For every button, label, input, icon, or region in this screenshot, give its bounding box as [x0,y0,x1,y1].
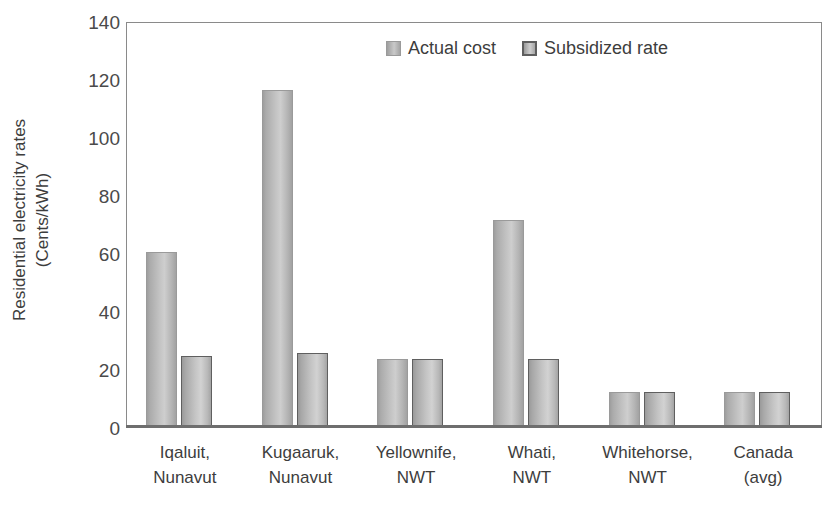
x-tick-label-5-line-1: (avg) [695,465,828,490]
plot-area [127,23,821,428]
y-tick-80: 80 [64,187,120,206]
bar-subsidized-rate [412,359,443,428]
y-tick-120: 120 [64,71,120,90]
bar-subsidized-rate [644,392,675,428]
y-tick-60: 60 [64,245,120,264]
chart-legend: Actual cost Subsidized rate [386,38,668,59]
x-tick-label-5: Canada(avg) [695,440,828,490]
bar-actual-cost [724,392,755,428]
legend-item-subsidized-rate: Subsidized rate [522,38,668,59]
bar-chart: Residential electricity rates (Cents/kWh… [0,0,828,505]
legend-swatch-subsidized-rate-icon [522,41,537,56]
legend-label-subsidized-rate: Subsidized rate [544,38,668,59]
legend-swatch-actual-cost-icon [386,41,401,56]
y-axis-title-line-1: Residential electricity rates [8,119,31,321]
y-tick-140: 140 [64,13,120,32]
bar-actual-cost [146,252,177,428]
x-axis-baseline [126,425,822,428]
bar-subsidized-rate [181,356,212,428]
y-tick-20: 20 [64,361,120,380]
y-tick-40: 40 [64,303,120,322]
bar-actual-cost [262,90,293,428]
y-axis-tick-labels: 140 120 100 80 60 40 20 0 [62,0,120,440]
bar-actual-cost [493,220,524,428]
bar-subsidized-rate [528,359,559,428]
bar-actual-cost [377,359,408,428]
bar-actual-cost [609,392,640,428]
bar-subsidized-rate [297,353,328,428]
y-axis-title-line-2: (Cents/kWh) [31,119,54,321]
y-tick-100: 100 [64,129,120,148]
bar-subsidized-rate [759,392,790,428]
y-tick-0: 0 [64,419,120,438]
x-tick-label-5-line-0: Canada [695,440,828,465]
y-axis-title: Residential electricity rates (Cents/kWh… [0,0,62,440]
legend-item-actual-cost: Actual cost [386,38,496,59]
legend-label-actual-cost: Actual cost [408,38,496,59]
